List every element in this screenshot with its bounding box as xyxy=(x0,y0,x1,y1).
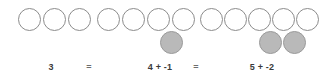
equals-sign-1: = xyxy=(69,62,109,73)
counter-diagram-canvas: 3 4 + -1 5 + -2 = = xyxy=(0,0,323,80)
positive-counter xyxy=(18,8,41,31)
positive-counter xyxy=(172,8,195,31)
positive-counter xyxy=(200,8,223,31)
positive-counter xyxy=(68,8,91,31)
negative-counter xyxy=(160,31,183,54)
positive-counter xyxy=(122,8,145,31)
positive-counter xyxy=(147,8,170,31)
positive-counter xyxy=(97,8,120,31)
positive-counter xyxy=(272,8,295,31)
negative-counter xyxy=(283,31,306,54)
group-label-3: 5 + -2 xyxy=(222,62,302,73)
equals-sign-2: = xyxy=(176,62,216,73)
negative-counter xyxy=(259,31,282,54)
positive-counter xyxy=(224,8,247,31)
positive-counter xyxy=(43,8,66,31)
positive-counter xyxy=(248,8,271,31)
positive-counter xyxy=(296,8,319,31)
